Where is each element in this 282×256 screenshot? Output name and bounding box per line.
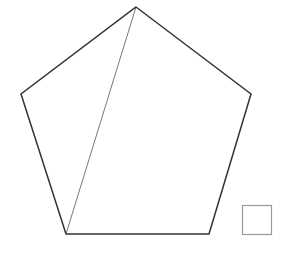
- pentagon-diagonal: [66, 7, 136, 234]
- diagram-canvas: [0, 0, 282, 256]
- small-square: [243, 206, 272, 235]
- pentagon: [21, 7, 251, 234]
